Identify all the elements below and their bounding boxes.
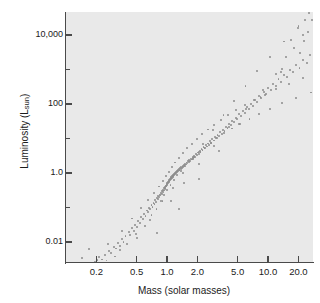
- data-point: [245, 85, 247, 87]
- data-point: [158, 186, 160, 188]
- data-point: [303, 40, 305, 42]
- data-point: [201, 133, 203, 135]
- x-tick: [267, 256, 268, 262]
- data-point: [285, 56, 287, 58]
- data-point: [223, 132, 225, 134]
- y-tick-minor: [66, 69, 70, 70]
- data-point: [119, 249, 121, 251]
- data-point: [218, 135, 220, 137]
- x-tick: [96, 256, 97, 262]
- data-point: [104, 254, 106, 256]
- data-point: [302, 59, 304, 61]
- data-point: [81, 257, 83, 259]
- data-point: [182, 152, 184, 154]
- data-point: [129, 234, 131, 236]
- data-point: [156, 232, 158, 234]
- data-point: [235, 109, 237, 111]
- plot-area: [66, 12, 313, 263]
- data-point: [142, 218, 144, 220]
- data-point: [220, 119, 222, 121]
- data-point: [281, 68, 283, 70]
- y-axis-title-prefix: Luminosity (L: [19, 109, 30, 168]
- data-point: [295, 64, 297, 66]
- data-point: [311, 19, 313, 21]
- data-point: [210, 142, 212, 144]
- data-point: [204, 147, 206, 149]
- data-point: [299, 52, 301, 54]
- data-point: [125, 235, 127, 237]
- data-point: [244, 112, 246, 114]
- data-point: [236, 118, 238, 120]
- data-point: [275, 85, 277, 87]
- data-point: [280, 71, 282, 73]
- data-point: [286, 76, 288, 78]
- data-point: [155, 201, 157, 203]
- data-point: [178, 157, 180, 159]
- data-point: [213, 124, 215, 126]
- data-point: [119, 245, 121, 247]
- y-tick-label: 0.01: [45, 237, 63, 246]
- data-point: [218, 150, 220, 152]
- data-point: [123, 241, 125, 243]
- x-tick-label: 0.5: [130, 266, 143, 277]
- data-point: [131, 218, 133, 220]
- data-point: [144, 225, 146, 227]
- data-point: [216, 137, 218, 139]
- x-tick-label: 20.0: [289, 266, 308, 277]
- data-point: [178, 208, 180, 210]
- data-point: [117, 242, 119, 244]
- data-point: [269, 56, 271, 58]
- data-point: [231, 128, 233, 130]
- data-point: [227, 114, 229, 116]
- data-point: [280, 81, 282, 83]
- data-point: [173, 179, 175, 181]
- data-point: [139, 222, 141, 224]
- y-tick-major: [66, 172, 72, 173]
- data-point: [221, 133, 223, 135]
- data-point: [288, 83, 290, 85]
- data-point: [115, 248, 117, 250]
- y-tick-major: [66, 103, 72, 104]
- data-point: [170, 184, 172, 186]
- data-point: [156, 208, 158, 210]
- data-point: [147, 199, 149, 201]
- data-point: [302, 34, 304, 36]
- data-point: [182, 172, 184, 174]
- data-point: [281, 102, 283, 104]
- data-point: [267, 87, 269, 89]
- data-point: [223, 114, 225, 116]
- data-point: [184, 165, 186, 167]
- data-point: [275, 73, 277, 75]
- x-tick: [237, 256, 238, 262]
- data-point: [174, 162, 176, 164]
- data-point: [162, 200, 164, 202]
- data-point: [101, 259, 103, 261]
- data-point: [186, 147, 188, 149]
- data-point: [269, 108, 271, 110]
- data-point: [233, 100, 235, 102]
- data-point: [283, 41, 285, 43]
- x-tick-label: 0.2: [90, 266, 103, 277]
- x-tick-label: 5.0: [231, 266, 244, 277]
- data-point: [198, 178, 200, 180]
- x-tick: [298, 256, 299, 262]
- data-point: [304, 19, 306, 21]
- data-point: [262, 89, 264, 91]
- data-point: [293, 47, 295, 49]
- data-point: [244, 104, 246, 106]
- data-point: [233, 121, 235, 123]
- data-point: [198, 163, 200, 165]
- x-tick: [136, 256, 137, 262]
- data-point: [213, 145, 215, 147]
- data-point: [172, 187, 174, 189]
- data-point: [192, 158, 194, 160]
- data-point: [147, 211, 149, 213]
- data-point: [308, 12, 310, 14]
- data-point: [196, 138, 198, 140]
- data-point: [208, 144, 210, 146]
- data-point: [114, 256, 116, 258]
- y-axis-title-subscript: sun: [22, 97, 31, 109]
- data-point: [307, 31, 309, 33]
- y-axis-title-suffix: ): [19, 94, 30, 97]
- data-point: [149, 208, 151, 210]
